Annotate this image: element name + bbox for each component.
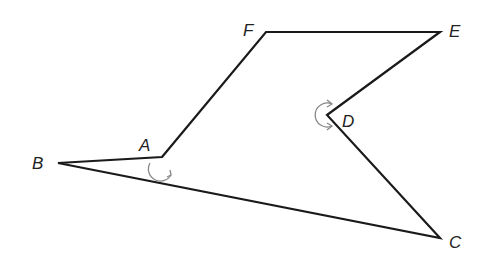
angle-marker-d xyxy=(315,100,332,130)
vertex-label-e: E xyxy=(449,23,460,40)
angle-marker-a xyxy=(148,163,171,181)
diagram-canvas: ABCDEF xyxy=(0,0,496,260)
vertex-label-b: B xyxy=(32,155,43,172)
vertex-label-a: A xyxy=(139,137,150,154)
hexagon-abcdef xyxy=(58,32,440,238)
vertex-label-c: C xyxy=(449,234,461,251)
vertex-label-d: D xyxy=(342,113,354,130)
vertex-label-f: F xyxy=(243,22,253,39)
